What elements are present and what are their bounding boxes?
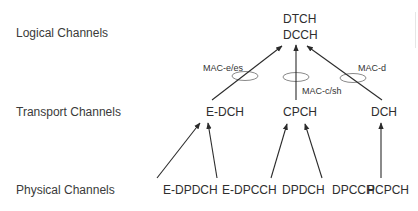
arrow-dpdch-to-cpch [271, 124, 287, 178]
edge-border-line [415, 12, 416, 48]
arrow-e-dpdch-to-e-dch [157, 123, 200, 178]
arrow-e-dpcch-to-e-dch [208, 123, 217, 178]
arrow-dch-to-logical [307, 46, 382, 100]
mac-d-ellipse [340, 74, 366, 83]
arrow-e-dch-to-logical [212, 46, 282, 100]
mac-e-es-ellipse [232, 72, 258, 81]
arrow-dpcch-to-cpch [305, 124, 322, 178]
arrows-layer [0, 0, 418, 211]
